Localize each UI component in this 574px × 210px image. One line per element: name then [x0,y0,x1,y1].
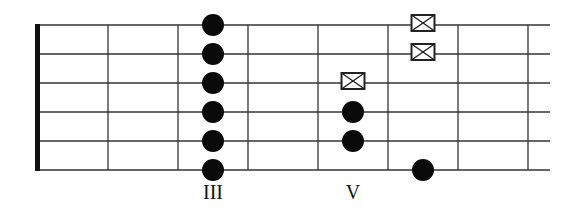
strings [38,25,550,170]
dot-icon [202,14,224,36]
dot-icon [202,159,224,181]
fret-labels: IIIV [203,181,361,203]
x-box-icon [412,15,435,31]
x-box-icon [342,73,365,89]
dot-icon [342,101,364,123]
fret-lines [108,25,528,170]
fret-label-3: III [203,181,223,203]
dot-icon [202,101,224,123]
nut [35,24,40,171]
dot-icon [342,130,364,152]
x-box-icon [412,44,435,60]
dot-icon [202,130,224,152]
dot-icon [202,43,224,65]
fretboard-diagram: IIIV [0,0,574,210]
dot-icon [202,72,224,94]
dot-icon [412,159,434,181]
fret-label-5: V [346,181,361,203]
